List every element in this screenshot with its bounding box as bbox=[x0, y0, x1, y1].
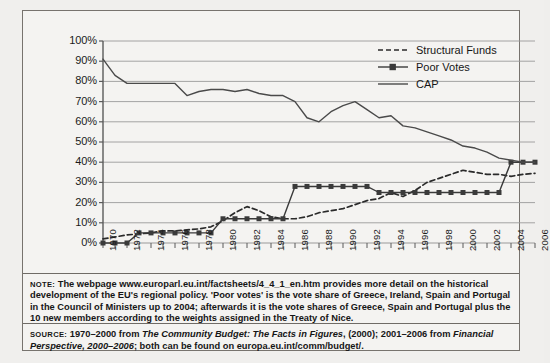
legend-item-structural-funds: Structural Funds bbox=[377, 41, 497, 58]
y-tick-label: 80% bbox=[53, 74, 97, 86]
x-tick-label: 1996 bbox=[419, 229, 430, 251]
legend-swatch-dashed-icon bbox=[377, 44, 409, 56]
x-tick-label: 1994 bbox=[395, 229, 406, 251]
x-tick-label: 1990 bbox=[347, 229, 358, 251]
x-tick-label: 1970 bbox=[107, 229, 118, 251]
y-tick-label: 50% bbox=[53, 135, 97, 147]
x-tick-label: 1986 bbox=[299, 229, 310, 251]
note-kicker: NOTE: bbox=[30, 280, 55, 289]
chart-area: 0%10%20%30%40%50%60%70%80%90%100% 197019… bbox=[47, 23, 541, 271]
x-tick-label: 1988 bbox=[323, 229, 334, 251]
x-tick-label: 1974 bbox=[155, 229, 166, 251]
x-tick-label: 1984 bbox=[275, 229, 286, 251]
x-tick-label: 1982 bbox=[251, 229, 262, 251]
divider-above-source bbox=[23, 323, 519, 324]
x-tick-label: 2002 bbox=[491, 229, 502, 251]
source-part-2: , (2000); 2001–2006 from bbox=[343, 329, 453, 339]
legend-item-cap: CAP bbox=[377, 75, 497, 92]
source-italic-1: The Community Budget: The Facts in Figur… bbox=[142, 329, 343, 339]
y-tick-label: 10% bbox=[53, 216, 97, 228]
x-tick-label: 1978 bbox=[203, 229, 214, 251]
x-tick-label: 1980 bbox=[227, 229, 238, 251]
y-tick-label: 40% bbox=[53, 155, 97, 167]
chart-legend: Structural Funds Poor Votes CAP bbox=[377, 41, 497, 92]
source-block: SOURCE: 1970–2000 from The Community Bud… bbox=[30, 329, 512, 352]
source-part-3: ; both can be found on europa.eu.int/com… bbox=[134, 341, 364, 351]
legend-label-structural-funds: Structural Funds bbox=[416, 44, 497, 56]
x-tick-label: 1976 bbox=[179, 229, 190, 251]
legend-swatch-square-marker-icon bbox=[377, 61, 409, 73]
note-text: The webpage www.europarl.eu.int/factshee… bbox=[30, 279, 510, 323]
y-tick-label: 70% bbox=[53, 95, 97, 107]
legend-label-cap: CAP bbox=[416, 78, 439, 90]
legend-swatch-solid-icon bbox=[377, 78, 409, 90]
x-tick-label: 2006 bbox=[539, 229, 550, 251]
y-tick-label: 100% bbox=[53, 34, 97, 46]
y-tick-label: 0% bbox=[53, 236, 97, 248]
figure-frame: 0%10%20%30%40%50%60%70%80%90%100% 197019… bbox=[22, 10, 520, 351]
x-tick-label: 2004 bbox=[515, 229, 526, 251]
note-block: NOTE: The webpage www.europarl.eu.int/fa… bbox=[30, 279, 512, 325]
source-part-1: 1970–2000 from bbox=[67, 329, 142, 339]
y-tick-label: 60% bbox=[53, 115, 97, 127]
divider-above-note bbox=[23, 273, 519, 274]
x-tick-label: 1992 bbox=[371, 229, 382, 251]
legend-item-poor-votes: Poor Votes bbox=[377, 58, 497, 75]
y-tick-label: 90% bbox=[53, 54, 97, 66]
x-tick-label: 2000 bbox=[467, 229, 478, 251]
x-tick-label: 1998 bbox=[443, 229, 454, 251]
y-tick-label: 20% bbox=[53, 196, 97, 208]
plot-wrapper: 0%10%20%30%40%50%60%70%80%90%100% 197019… bbox=[47, 23, 541, 271]
y-tick-label: 30% bbox=[53, 175, 97, 187]
source-kicker: SOURCE: bbox=[30, 330, 67, 339]
legend-label-poor-votes: Poor Votes bbox=[416, 61, 470, 73]
x-tick-label: 1972 bbox=[131, 229, 142, 251]
